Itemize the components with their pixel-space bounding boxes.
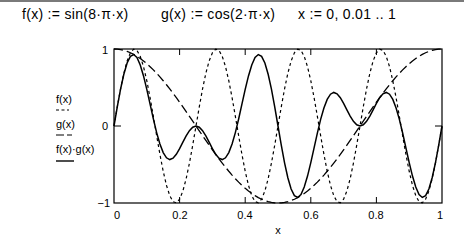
x-tick-0.6: 0.6 [303, 209, 318, 221]
y-tick-1: 1 [102, 44, 108, 56]
x-tick-0: 0 [114, 209, 120, 221]
x-tick-0.2: 0.2 [172, 209, 187, 221]
x-tick-0.4: 0.4 [237, 209, 252, 221]
legend: f(x) g(x) f(x)·g(x) [56, 93, 95, 161]
legend-label-fg: f(x)·g(x) [56, 143, 95, 155]
legend-label-f: f(x) [56, 93, 72, 105]
x-axis-label: x [275, 224, 281, 234]
y-tick-0: 0 [102, 120, 108, 132]
y-tick-minus1: −1 [97, 197, 110, 209]
legend-label-g: g(x) [56, 118, 75, 130]
plot-region[interactable]: f(x) g(x) f(x)·g(x) 1 0 −1 0 0.2 0.4 0.6… [0, 0, 464, 234]
x-tick-1: 1 [437, 209, 443, 221]
x-tick-0.8: 0.8 [368, 209, 383, 221]
series-fg-solid [114, 55, 442, 198]
